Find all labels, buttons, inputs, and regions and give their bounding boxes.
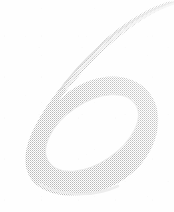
glyph-tail-fade-overlay (0, 0, 174, 212)
glyph-layer: Faint light-gray scanned calligraphic nu… (0, 0, 174, 212)
scan-canvas: Faint light-gray scanned calligraphic nu… (0, 0, 174, 212)
glyph-six-svg: Faint light-gray scanned calligraphic nu… (0, 0, 174, 212)
